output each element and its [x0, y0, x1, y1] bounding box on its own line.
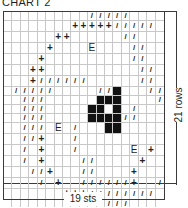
empty-cell [122, 54, 130, 65]
slash-icon: / [40, 114, 42, 122]
slash-icon: / [23, 146, 25, 154]
slash-icon: / [40, 96, 42, 104]
empty-cell [88, 123, 96, 134]
slash-icon: / [133, 190, 135, 198]
slash-icon: / [74, 135, 76, 143]
empty-cell [46, 21, 54, 32]
empty-cell [156, 200, 164, 207]
plus-icon: + [55, 178, 61, 188]
empty-cell [4, 76, 12, 87]
empty-cell [156, 114, 164, 123]
filled-square-cell [88, 105, 96, 114]
plus-icon: + [47, 43, 53, 53]
empty-cell [38, 21, 46, 32]
empty-cell [80, 145, 88, 156]
slash-cell: / [122, 114, 130, 123]
empty-cell [113, 43, 121, 54]
empty-cell [88, 76, 96, 87]
slash-icon: / [32, 168, 34, 176]
empty-cell [38, 32, 46, 43]
empty-cell [12, 21, 20, 32]
plus-icon: + [140, 156, 146, 166]
plus-cell: + [71, 21, 79, 32]
empty-cell [156, 156, 164, 167]
empty-cell [130, 65, 138, 76]
empty-cell [139, 178, 147, 189]
empty-cell [80, 87, 88, 96]
empty-cell [88, 87, 96, 96]
slash-icon: / [91, 12, 93, 20]
empty-cell [55, 43, 63, 54]
letter-e-label: E [131, 145, 138, 155]
empty-cell [55, 54, 63, 65]
empty-cell [29, 12, 37, 21]
empty-cell [12, 167, 20, 178]
slash-icon: / [23, 96, 25, 104]
empty-cell [71, 87, 79, 96]
empty-cell [46, 65, 54, 76]
slash-icon: / [40, 105, 42, 113]
plus-cell: + [97, 21, 105, 32]
empty-cell [80, 123, 88, 134]
slash-icon: / [124, 12, 126, 20]
empty-cell [113, 54, 121, 65]
empty-cell [97, 145, 105, 156]
empty-cell [21, 12, 29, 21]
empty-cell [105, 65, 113, 76]
filled-square-cell [97, 114, 105, 123]
empty-cell [4, 54, 12, 65]
letter-e-label: E [89, 43, 96, 53]
empty-cell [97, 43, 105, 54]
empty-cell [55, 87, 63, 96]
empty-cell [113, 32, 121, 43]
empty-cell [105, 134, 113, 145]
plus-icon: + [81, 21, 87, 31]
letter-e-cell: E [130, 145, 138, 156]
slash-cell: / [105, 178, 113, 189]
slash-icon: / [32, 87, 34, 95]
empty-cell [80, 114, 88, 123]
slash-icon: / [124, 22, 126, 30]
empty-cell [71, 32, 79, 43]
empty-cell [38, 12, 46, 21]
plus-cell: + [147, 145, 155, 156]
plus-icon: + [38, 134, 44, 144]
empty-cell [46, 105, 54, 114]
sts-bracket-right [164, 184, 165, 200]
empty-cell [71, 167, 79, 178]
empty-cell [139, 87, 147, 96]
empty-cell [55, 65, 63, 76]
slash-cell: / [139, 76, 147, 87]
slash-icon: / [82, 168, 84, 176]
slash-icon: / [108, 200, 110, 208]
empty-cell [21, 200, 29, 207]
empty-cell [29, 21, 37, 32]
slash-icon: / [150, 77, 152, 85]
slash-icon: / [133, 55, 135, 63]
empty-cell [147, 114, 155, 123]
empty-cell [122, 87, 130, 96]
rows-dimension-label: 21 rows [171, 88, 185, 122]
empty-cell [71, 54, 79, 65]
empty-cell [21, 178, 29, 189]
slash-cell: / [29, 167, 37, 178]
empty-cell [130, 123, 138, 134]
plus-icon: + [38, 65, 44, 75]
slash-cell: / [139, 65, 147, 76]
empty-cell [63, 65, 71, 76]
empty-cell [55, 156, 63, 167]
slash-icon: / [133, 22, 135, 30]
empty-cell [147, 167, 155, 178]
slash-icon: / [108, 179, 110, 187]
plus-cell: + [55, 32, 63, 43]
empty-cell [4, 105, 12, 114]
slash-icon: / [23, 87, 25, 95]
empty-cell [12, 43, 20, 54]
empty-cell [80, 105, 88, 114]
empty-cell [122, 43, 130, 54]
empty-cell [97, 65, 105, 76]
plus-cell: + [88, 21, 96, 32]
empty-cell [147, 43, 155, 54]
empty-cell [71, 96, 79, 105]
empty-cell [46, 12, 54, 21]
